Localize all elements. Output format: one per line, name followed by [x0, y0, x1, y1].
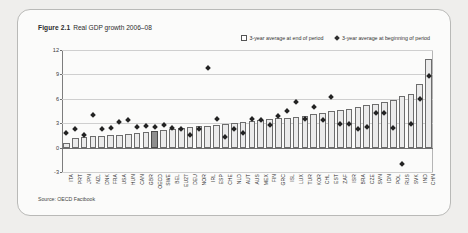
chart-bar-slot	[177, 50, 186, 172]
chart-plot-area: -3036912	[62, 50, 433, 172]
chart-diamond-marker	[311, 104, 316, 109]
chart-bar-slot	[336, 50, 345, 172]
x-axis-label: CZE	[369, 174, 375, 184]
x-axis-label: CHE	[227, 174, 233, 185]
chart-diamond-marker	[214, 116, 219, 121]
chart-bar-slot	[239, 50, 248, 172]
chart-bar-slot	[292, 50, 301, 172]
x-axis-label: JPN	[86, 174, 92, 184]
chart-bar	[63, 143, 70, 148]
chart-bar-slot	[345, 50, 354, 172]
x-axis-label: CAN	[139, 174, 145, 185]
chart-bar	[293, 117, 300, 148]
y-axis-tick	[60, 172, 62, 173]
x-axis-label: MEX	[263, 174, 269, 185]
chart-bar-slot	[407, 50, 416, 172]
chart-bar	[169, 129, 176, 148]
chart-bar	[143, 132, 150, 147]
x-axis-label: IRL	[210, 174, 216, 182]
y-axis-tick-label: 0	[56, 145, 59, 151]
chart-bar-slot	[283, 50, 292, 172]
x-axis-label: DEU	[192, 174, 198, 185]
chart-bar	[204, 126, 211, 148]
chart-bar-slot	[80, 50, 89, 172]
legend-label-beginning-of-period: 3-year average at beginning of period	[342, 35, 430, 41]
chart-bar-slot	[318, 50, 327, 172]
chart-diamond-marker	[126, 117, 131, 122]
page-title: Real GDP growth 2006–08	[73, 24, 152, 31]
chart-bar-slot	[230, 50, 239, 172]
chart-diamond-marker	[99, 126, 104, 131]
chart-bar-slot	[354, 50, 363, 172]
chart-bar	[72, 138, 79, 148]
chart-diamond-marker	[294, 99, 299, 104]
chart-bar	[213, 125, 220, 148]
square-outline-icon	[241, 35, 247, 41]
chart-bar-slot	[424, 50, 433, 172]
chart-bar	[116, 135, 123, 148]
figure-header: Figure 2.1Real GDP growth 2006–08	[38, 24, 152, 31]
chart-bar-slot	[301, 50, 310, 172]
chart-bar	[399, 96, 406, 147]
page-background: Figure 2.1Real GDP growth 2006–08 3-year…	[0, 0, 468, 233]
x-axis-label: ISR	[351, 174, 357, 183]
chart-bar-slot	[274, 50, 283, 172]
chart-bar	[390, 100, 397, 147]
chart-bar-slot	[203, 50, 212, 172]
x-axis-label: NZL	[95, 174, 101, 184]
chart-series-container	[62, 50, 433, 172]
chart-diamond-marker	[161, 122, 166, 127]
y-axis-tick-label: 9	[56, 71, 59, 77]
x-axis-label: AUS	[254, 174, 260, 185]
x-axis-label: CHL	[324, 174, 330, 184]
chart-bar	[81, 137, 88, 148]
x-axis-label: EST	[333, 174, 339, 184]
chart-bar-slot	[97, 50, 106, 172]
chart-bar	[151, 131, 158, 148]
x-axis-label: FRA	[112, 174, 118, 184]
x-axis-label: GRC	[280, 174, 286, 185]
chart-bar-slot	[415, 50, 424, 172]
chart-bar-slot	[327, 50, 336, 172]
x-axis-label: ISL	[289, 174, 295, 182]
chart-diamond-marker	[135, 124, 140, 129]
chart-bar-slot	[106, 50, 115, 172]
y-axis-tick-label: 6	[56, 96, 59, 102]
source-note: Source: OECD Factbook	[38, 196, 95, 202]
x-axis-label: GBR	[148, 174, 154, 185]
chart-bar-slot	[159, 50, 168, 172]
chart-bar-slot	[221, 50, 230, 172]
legend-item-beginning-of-period: 3-year average at beginning of period	[335, 35, 430, 41]
x-axis-label: TUR	[307, 174, 313, 185]
x-axis-label: LUX	[298, 174, 304, 184]
chart-diamond-marker	[329, 94, 334, 99]
figure-card: Figure 2.1Real GDP growth 2006–08 3-year…	[17, 9, 451, 216]
chart-bar-slot	[389, 50, 398, 172]
chart-diamond-marker	[73, 126, 78, 131]
x-axis-label: EU27	[183, 174, 189, 187]
x-axis-label: SWE	[165, 174, 171, 186]
x-axis-label: NOR	[201, 174, 207, 185]
chart-bar-slot	[371, 50, 380, 172]
chart-diamond-marker	[285, 108, 290, 113]
chart-bar	[98, 136, 105, 147]
chart-bar	[381, 102, 388, 148]
chart-diamond-marker	[64, 130, 69, 135]
chart-bar	[337, 110, 344, 147]
chart-bar	[310, 114, 317, 147]
chart-bar-slot	[89, 50, 98, 172]
chart-bar	[346, 109, 353, 148]
x-axis-label: PRT	[77, 174, 83, 184]
chart-bar-slot	[142, 50, 151, 172]
chart-bar-slot	[248, 50, 257, 172]
x-axis-label: POL	[395, 174, 401, 184]
x-axis-label: SVN	[377, 174, 383, 185]
chart-bar	[284, 118, 291, 148]
chart-bar	[134, 133, 141, 148]
chart-bar-slot	[115, 50, 124, 172]
chart-bar-slot	[186, 50, 195, 172]
diamond-filled-icon	[335, 35, 341, 41]
chart-bar-slot	[133, 50, 142, 172]
y-axis-tick-label: 3	[56, 120, 59, 126]
chart-bar-slot	[380, 50, 389, 172]
